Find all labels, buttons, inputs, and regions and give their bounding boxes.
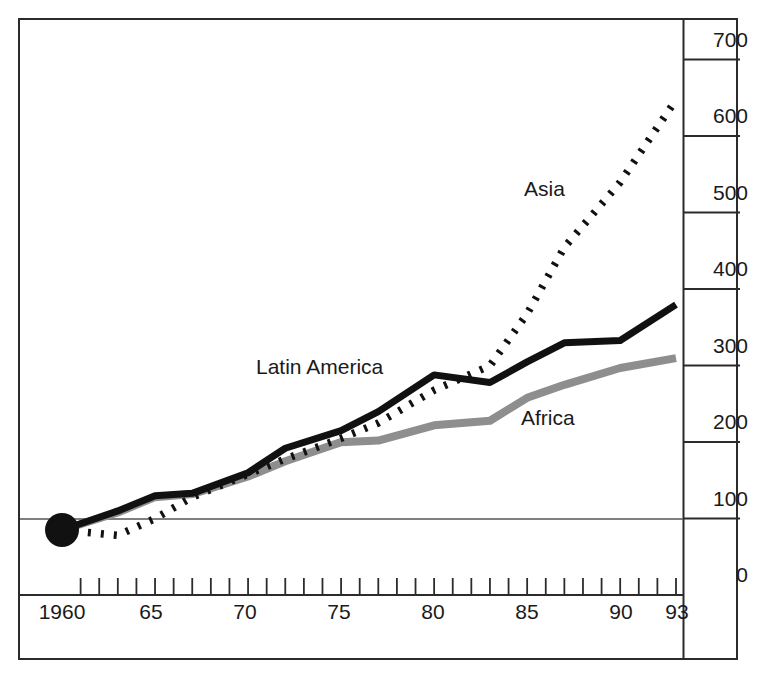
x-axis-label-70: 70	[223, 600, 267, 624]
y-axis-label-0: 0	[690, 563, 748, 587]
x-axis-label-75: 75	[317, 600, 361, 624]
y-axis-label-100: 100	[690, 487, 748, 511]
series-label-africa: Africa	[521, 406, 575, 430]
x-axis-label-85: 85	[505, 600, 549, 624]
x-tick-marks	[81, 578, 676, 594]
y-axis-label-400: 400	[690, 257, 748, 281]
x-axis-label-1960: 1960	[26, 600, 98, 624]
series-line-africa	[62, 358, 676, 530]
y-axis-label-300: 300	[690, 334, 748, 358]
series-label-latin-america: Latin America	[256, 355, 383, 379]
x-axis-label-80: 80	[411, 600, 455, 624]
x-axis-label-93: 93	[655, 600, 699, 624]
y-axis-label-500: 500	[690, 181, 748, 205]
origin-marker-dot	[45, 513, 79, 547]
y-axis-label-700: 700	[690, 28, 748, 52]
series-line-latin-america	[62, 305, 676, 530]
y-axis-label-200: 200	[690, 410, 748, 434]
series-line-asia	[62, 100, 676, 536]
x-axis-label-65: 65	[129, 600, 173, 624]
y-axis-label-600: 600	[690, 104, 748, 128]
y-tick-marks	[684, 60, 741, 519]
series-label-asia: Asia	[524, 177, 565, 201]
chart-figure: 700 600 500 400 300 200 100 0 1960 65 70…	[0, 0, 757, 686]
x-axis-label-90: 90	[599, 600, 643, 624]
chart-plot-area	[0, 0, 757, 686]
